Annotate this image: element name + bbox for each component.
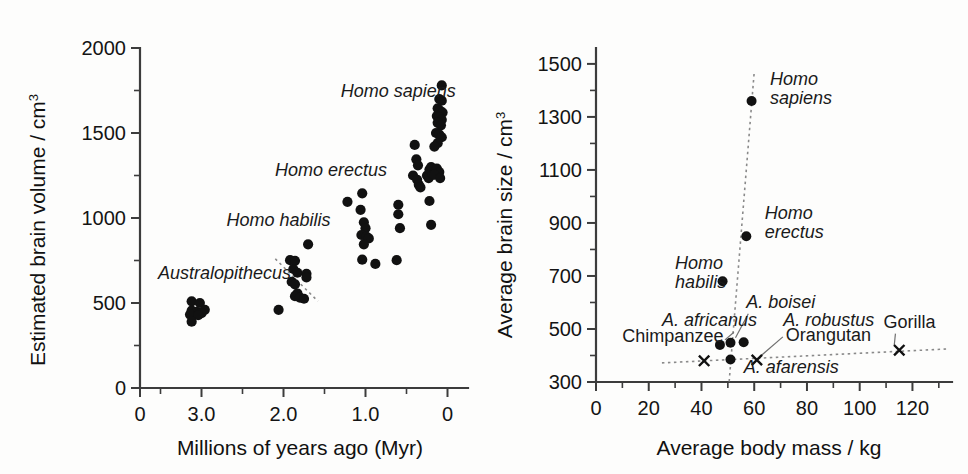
- leader-line: [894, 334, 895, 346]
- left-x-ticklabel: 2.0: [270, 403, 298, 425]
- point-label-a-boisei: A. boisei: [745, 292, 816, 312]
- right-x-ticklabel: 40: [690, 397, 712, 419]
- right-x-ticklabel: 60: [743, 397, 765, 419]
- data-point: [410, 140, 420, 150]
- data-point: [426, 220, 436, 230]
- data-point: [355, 205, 365, 215]
- data-point: [187, 317, 197, 327]
- data-point-a-boisei: [725, 338, 735, 348]
- right-y-ticklabel: 900: [549, 212, 582, 234]
- right-y-axis-title-exponent: 3: [493, 112, 508, 119]
- data-point: [301, 272, 311, 282]
- data-point-a-afarensis: [725, 354, 735, 364]
- data-point: [303, 239, 313, 249]
- data-point: [342, 197, 352, 207]
- data-point-gorilla: [894, 345, 904, 355]
- point-label-chimpanzee: Chimpanzee: [622, 326, 723, 346]
- right-y-ticklabel: 500: [549, 318, 582, 340]
- data-point: [392, 255, 402, 265]
- data-point: [395, 223, 405, 233]
- right-x-ticklabel: 20: [638, 397, 660, 419]
- data-point: [299, 294, 309, 304]
- right-y-ticklabel: 700: [549, 265, 582, 287]
- left-series-label: Australopithecus: [157, 263, 291, 283]
- right-y-ticklabel: 300: [549, 371, 582, 393]
- left-x-ticklabel: 0: [134, 403, 145, 425]
- left-y-ticklabel: 500: [93, 292, 126, 314]
- right-x-ticklabel: 120: [896, 397, 929, 419]
- left-plot-svg: 050010001500200003.02.01.00 Australopith…: [0, 0, 484, 474]
- left-series-labels: AustralopithecusHomo habilisHomo erectus…: [157, 81, 456, 283]
- panel-left-brain-volume-vs-time: 050010001500200003.02.01.00 Australopith…: [0, 0, 484, 474]
- data-point-homo-erectus: [741, 231, 751, 241]
- left-x-ticklabel: 0: [442, 403, 453, 425]
- data-point-homo-sapiens: [747, 96, 757, 106]
- point-label-homo-erectus: Homoerectus: [765, 203, 824, 242]
- data-point: [429, 142, 439, 152]
- data-point: [290, 279, 300, 289]
- data-point: [359, 239, 369, 249]
- left-x-ticklabel: 3.0: [188, 403, 216, 425]
- data-point: [393, 200, 403, 210]
- data-point: [370, 259, 380, 269]
- left-y-ticklabel: 1000: [82, 207, 127, 229]
- right-trendline: [729, 72, 754, 382]
- right-y-axis-title-group: Average brain size / cm3: [493, 112, 516, 338]
- point-label-gorilla: Gorilla: [883, 312, 936, 332]
- data-point-a-robustus: [739, 337, 749, 347]
- right-y-axis-title: Average brain size / cm: [493, 119, 516, 338]
- figure-brain-evolution: 050010001500200003.02.01.00 Australopith…: [0, 0, 968, 474]
- right-y-ticklabel: 1300: [538, 106, 583, 128]
- data-point: [357, 255, 367, 265]
- right-point-labels: HomosapiensHomoerectusHomohabilisA. afri…: [622, 69, 936, 377]
- data-point: [415, 182, 425, 192]
- left-series-label: Homo sapiens: [341, 81, 456, 101]
- left-y-ticklabel: 1500: [82, 122, 127, 144]
- data-point: [393, 209, 403, 219]
- data-point-chimpanzee: [699, 356, 709, 366]
- left-y-axis-title: Estimated brain volume / cm: [26, 101, 49, 366]
- right-y-ticklabel: 1100: [539, 159, 582, 181]
- left-series-label: Homo habilis: [227, 210, 331, 230]
- right-x-ticklabel: 0: [590, 397, 601, 419]
- data-point: [424, 196, 434, 206]
- left-x-axis-title: Millions of years ago (Myr): [177, 436, 423, 459]
- left-x-ticklabel: 1.0: [352, 403, 380, 425]
- right-x-axis-title: Average body mass / kg: [657, 436, 882, 459]
- point-label-homo-sapiens: Homosapiens: [770, 69, 832, 108]
- left-series-label: Homo erectus: [275, 160, 387, 180]
- point-label-homo-habilis: Homohabilis: [675, 253, 726, 292]
- left-y-ticklabel: 2000: [82, 37, 127, 59]
- left-data-points: [185, 80, 448, 327]
- leader-line: [762, 337, 783, 355]
- svg-text:Estimated brain volume / cm3: Estimated brain volume / cm3: [26, 94, 49, 366]
- right-plot-svg: 300500700900110013001500020406080100120 …: [484, 0, 968, 474]
- svg-text:Average brain size / cm3: Average brain size / cm3: [493, 112, 516, 338]
- right-x-ticklabel: 80: [796, 397, 818, 419]
- left-y-axis-title-group: Estimated brain volume / cm3: [26, 94, 49, 366]
- left-y-axis-title-exponent: 3: [26, 94, 41, 101]
- data-point: [292, 268, 302, 278]
- data-point: [435, 173, 445, 183]
- right-x-ticklabel: 100: [843, 397, 876, 419]
- data-point: [273, 305, 283, 315]
- data-point: [413, 160, 423, 170]
- point-label-orangutan: Orangutan: [786, 325, 871, 345]
- right-y-ticklabel: 1500: [538, 53, 583, 75]
- panel-right-brain-size-vs-body-mass: 300500700900110013001500020406080100120 …: [484, 0, 968, 474]
- left-y-ticklabel: 0: [115, 377, 126, 399]
- point-label-a-afarensis: A. afarensis: [743, 357, 839, 377]
- data-point: [357, 188, 367, 198]
